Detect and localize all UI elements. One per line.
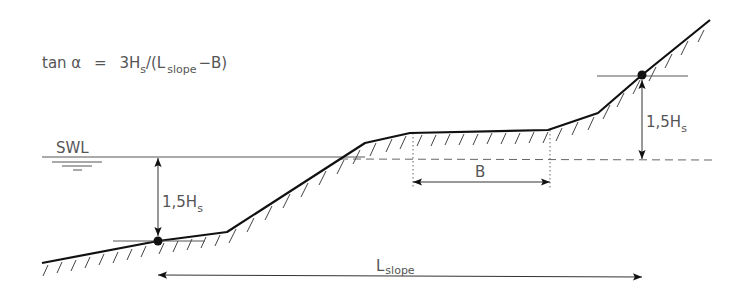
formula-rhs-mid: /(L [146, 54, 166, 72]
slope-profile [42, 20, 710, 263]
formula-rhs-sub2: slope [167, 63, 196, 76]
upper-height-label: 1,5Hs [646, 113, 687, 135]
formula: tan α = 3Hs/(Lslope−B) [42, 54, 227, 76]
lower-point [154, 237, 163, 246]
breakwater-slope-diagram: tan α = 3Hs/(Lslope−B) SWL [0, 0, 750, 295]
swl-label: SWL [56, 139, 89, 157]
formula-lhs: tan α [42, 54, 81, 72]
swl-dashed-line [340, 159, 712, 160]
formula-rhs-suffix: −B) [199, 54, 228, 72]
formula-rhs-prefix: 3H [119, 54, 140, 72]
upper-point [638, 71, 647, 80]
lower-height-label: 1,5Hs [162, 193, 203, 215]
slope-length-label: Lslope [376, 257, 415, 277]
berm-width-label: B [475, 163, 485, 181]
water-level-symbol [52, 162, 102, 170]
formula-equals: = [94, 54, 107, 72]
